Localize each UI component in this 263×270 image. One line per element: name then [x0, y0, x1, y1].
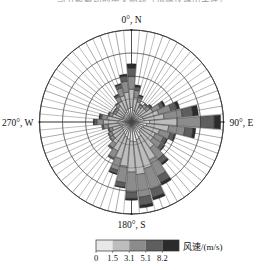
wind-rose-segment	[93, 119, 94, 125]
wind-rose-segment	[214, 115, 221, 129]
legend-tick-label: 3.1	[124, 253, 135, 263]
wind-rose-segment	[97, 119, 103, 124]
legend-tick-label: 0	[94, 253, 98, 263]
legend-tick-label: 8.2	[157, 253, 168, 263]
wind-rose-segment	[125, 192, 137, 199]
cardinal-tick	[38, 121, 40, 123]
wind-rose-segment	[200, 115, 214, 128]
legend: 01.53.15.18.2风速/(m/s)	[94, 240, 223, 263]
label-west: 270°, W	[2, 118, 34, 128]
wind-rose-figure: 0°, N90°, E180°, S270°, W 01.53.15.18.2风…	[0, 0, 263, 270]
wind-rose-segment	[127, 68, 135, 76]
label-north: 0°, N	[121, 15, 141, 25]
legend-swatch	[96, 240, 113, 251]
legend-swatch	[162, 240, 179, 251]
wind-rose-segment	[125, 198, 137, 200]
legend-tick-label: 5.1	[140, 253, 151, 263]
legend-swatch	[146, 240, 163, 251]
legend-swatch	[113, 240, 130, 251]
wind-rose-segment	[94, 119, 97, 125]
cardinal-tick	[130, 29, 132, 31]
wind-rose-segment	[126, 172, 137, 192]
legend-tick-label: 1.5	[107, 253, 118, 263]
label-east: 90°, E	[230, 118, 254, 128]
cardinal-tick	[130, 213, 132, 215]
wind-rose-segment	[127, 64, 136, 69]
legend-swatch	[129, 240, 146, 251]
cardinal-tick	[222, 121, 224, 123]
wind-rose-segment	[177, 117, 201, 128]
legend-title: 风速/(m/s)	[183, 242, 223, 252]
label-south: 180°, S	[117, 220, 145, 230]
wind-rose-segment	[128, 76, 135, 89]
